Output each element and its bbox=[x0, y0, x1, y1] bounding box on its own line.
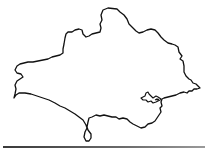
brownsea-island bbox=[156, 98, 159, 100]
dorset-outline-map bbox=[0, 0, 212, 155]
map-container: Dorset outline map bbox=[0, 0, 212, 155]
county-boundary bbox=[14, 8, 200, 141]
bottom-rule bbox=[3, 146, 205, 148]
poole-harbour bbox=[141, 92, 161, 103]
